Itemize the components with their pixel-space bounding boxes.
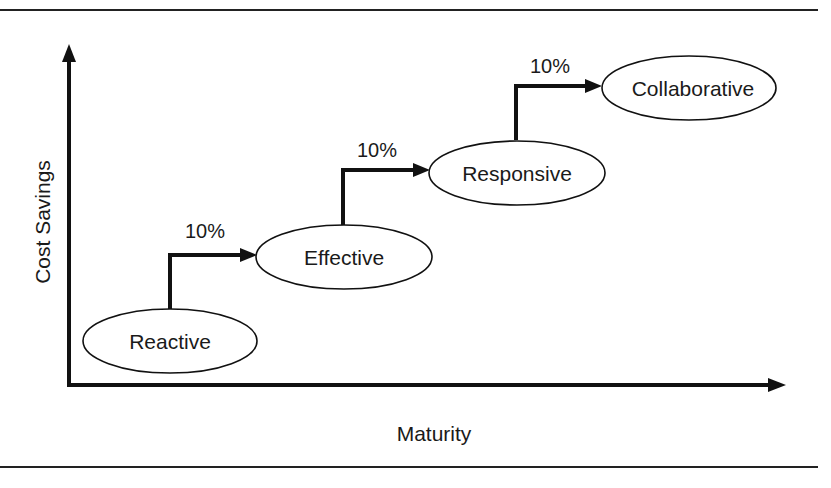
stage-label: Collaborative [632, 77, 755, 100]
x-axis [67, 378, 786, 392]
stage-label: Effective [304, 246, 384, 269]
arrowhead-icon [240, 248, 257, 262]
step-arrow-3 [516, 79, 602, 140]
x-axis-arrow-icon [768, 378, 786, 392]
stage-node-responsive: Responsive [429, 141, 605, 205]
step-label-3: 10% [530, 55, 570, 77]
step-label-2: 10% [357, 139, 397, 161]
x-axis-label: Maturity [397, 422, 472, 445]
step-arrow-2 [343, 163, 430, 225]
y-axis-arrow-icon [62, 44, 76, 62]
stage-label: Reactive [129, 330, 211, 353]
stage-node-reactive: Reactive [83, 309, 257, 373]
arrowhead-icon [413, 163, 430, 177]
stage-label: Responsive [462, 162, 572, 185]
stage-node-effective: Effective [256, 225, 432, 289]
maturity-diagram: Cost Savings Maturity 10% 10% 10% Reacti… [0, 0, 831, 488]
arrowhead-icon [585, 79, 602, 93]
step-arrow-1 [170, 248, 257, 309]
y-axis [62, 44, 76, 386]
y-axis-label: Cost Savings [31, 160, 54, 284]
step-label-1: 10% [185, 220, 225, 242]
stage-node-collaborative: Collaborative [602, 56, 776, 120]
